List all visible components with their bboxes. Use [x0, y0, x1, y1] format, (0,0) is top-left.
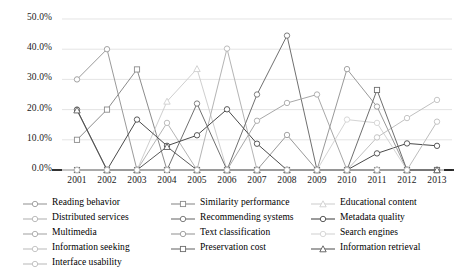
x-tick-label: 2009 — [300, 175, 334, 185]
y-tick-label: 40.0% — [8, 42, 52, 52]
data-point — [374, 151, 379, 156]
data-point — [164, 167, 169, 172]
data-point — [284, 100, 289, 105]
data-point — [134, 167, 139, 172]
y-tick-label: 50.0% — [8, 12, 52, 22]
data-point — [224, 46, 229, 51]
data-point — [314, 167, 319, 172]
x-tick-label: 2004 — [150, 175, 184, 185]
data-point — [374, 120, 379, 125]
data-point — [254, 118, 259, 123]
legend-item-information-retrieval[interactable]: Information retrieval — [310, 239, 456, 254]
circle-marker-icon — [22, 196, 48, 208]
data-point — [254, 141, 259, 146]
data-point — [194, 66, 200, 72]
x-tick-label: 2003 — [120, 175, 154, 185]
data-point — [134, 67, 139, 72]
legend-item-educational-content[interactable]: Educational content — [310, 194, 456, 209]
y-tick-label: 20.0% — [8, 103, 52, 113]
x-tick-label: 2008 — [270, 175, 304, 185]
data-point — [404, 141, 409, 146]
y-tick-label: 30.0% — [8, 72, 52, 82]
x-tick-label: 2007 — [240, 175, 274, 185]
data-point — [104, 47, 109, 52]
legend-label: Information retrieval — [340, 241, 420, 253]
circle-marker-icon — [310, 211, 336, 223]
legend-item-preservation-cost[interactable]: Preservation cost — [170, 239, 310, 254]
legend-spacer — [170, 254, 310, 269]
data-point — [374, 167, 379, 172]
x-tick-label: 2012 — [390, 175, 424, 185]
data-point — [254, 92, 259, 97]
data-point — [74, 77, 79, 82]
x-tick-label: 2010 — [330, 175, 364, 185]
data-point — [434, 119, 439, 124]
data-point — [434, 143, 439, 148]
series-preservation-cost — [74, 87, 439, 172]
y-tick-label: 0.0% — [8, 163, 52, 173]
data-point — [284, 167, 289, 172]
circle-marker-icon — [310, 226, 336, 238]
legend-item-information-seeking[interactable]: Information seeking — [22, 239, 170, 254]
data-point — [314, 92, 319, 97]
legend-item-recommending-systems[interactable]: Recommending systems — [170, 209, 310, 224]
data-point — [164, 120, 169, 125]
square-marker-icon — [170, 241, 196, 253]
legend-label: Educational content — [340, 196, 417, 208]
legend-item-multimedia[interactable]: Multimedia — [22, 224, 170, 239]
legend-item-reading-behavior[interactable]: Reading behavior — [22, 194, 170, 209]
legend-label: Information seeking — [52, 241, 130, 253]
data-point — [254, 167, 259, 172]
data-point — [104, 107, 109, 112]
data-point — [374, 135, 379, 140]
circle-marker-icon — [170, 226, 196, 238]
data-point — [134, 117, 139, 122]
data-point — [284, 33, 289, 38]
triangle-marker-icon — [310, 196, 336, 208]
legend-label: Reading behavior — [52, 196, 120, 208]
circle-marker-icon — [22, 211, 48, 223]
legend-label: Multimedia — [52, 226, 97, 238]
data-point — [404, 115, 409, 120]
legend-label: Text classification — [200, 226, 270, 238]
data-point — [224, 167, 229, 172]
data-point — [74, 137, 79, 142]
y-tick-label: 10.0% — [8, 133, 52, 143]
data-point — [74, 167, 79, 172]
data-point — [194, 133, 199, 138]
chart-legend: Reading behaviorSimilarity performanceEd… — [22, 194, 456, 269]
circle-marker-icon — [170, 211, 196, 223]
legend-item-text-classification[interactable]: Text classification — [170, 224, 310, 239]
legend-label: Metadata quality — [340, 211, 405, 223]
circle-marker-icon — [22, 226, 48, 238]
data-point — [344, 167, 349, 172]
series-line — [77, 36, 437, 170]
data-point — [194, 167, 199, 172]
x-tick-label: 2011 — [360, 175, 394, 185]
x-tick-label: 2006 — [210, 175, 244, 185]
data-point — [404, 167, 409, 172]
data-point — [284, 132, 289, 137]
legend-item-interface-usability[interactable]: Interface usability — [22, 254, 170, 269]
data-point — [374, 87, 379, 92]
circle-marker-icon — [22, 256, 48, 268]
legend-item-similarity-performance[interactable]: Similarity performance — [170, 194, 310, 209]
triangle-marker-icon — [310, 241, 336, 253]
legend-item-search-engines[interactable]: Search engines — [310, 224, 456, 239]
legend-label: Similarity performance — [200, 196, 289, 208]
x-tick-label: 2002 — [90, 175, 124, 185]
legend-label: Preservation cost — [200, 241, 266, 253]
data-point — [194, 101, 199, 106]
x-tick-label: 2005 — [180, 175, 214, 185]
data-point — [344, 117, 349, 122]
legend-label: Distributed services — [52, 211, 129, 223]
data-point — [434, 97, 439, 102]
legend-item-metadata-quality[interactable]: Metadata quality — [310, 209, 456, 224]
legend-item-distributed-services[interactable]: Distributed services — [22, 209, 170, 224]
legend-label: Interface usability — [52, 256, 122, 268]
series-line — [77, 100, 437, 170]
x-tick-label: 2013 — [420, 175, 454, 185]
data-point — [104, 167, 109, 172]
data-point — [224, 107, 229, 112]
